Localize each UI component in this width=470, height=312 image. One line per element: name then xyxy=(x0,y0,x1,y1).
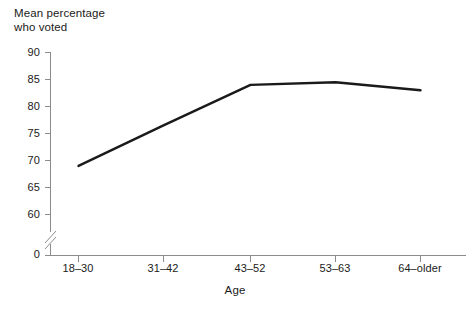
y-tick-marks xyxy=(45,53,51,256)
data-series-line xyxy=(79,82,421,166)
line-chart: Mean percentagewho voted 90 85 80 75 70 … xyxy=(0,0,470,312)
plot-area xyxy=(0,0,470,312)
x-tick-marks xyxy=(79,256,421,263)
